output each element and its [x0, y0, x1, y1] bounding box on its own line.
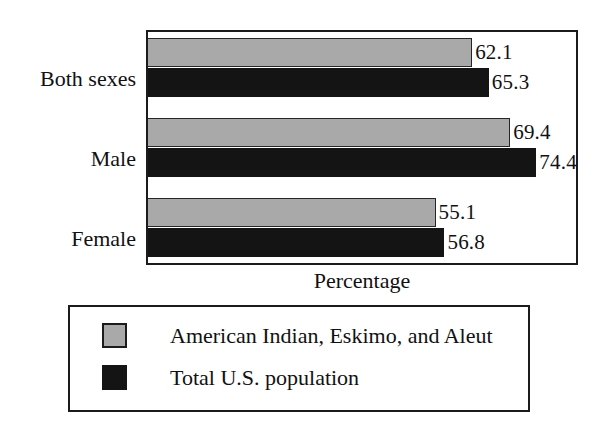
- bar-value-both-sexes-american-indian: 62.1: [475, 42, 513, 63]
- plot-inner: 62.1 65.3 69.4 74.4: [148, 32, 576, 263]
- bar-female-american-indian[interactable]: [148, 198, 436, 227]
- bar-value-both-sexes-total-us: 65.3: [492, 72, 530, 93]
- legend-label-total-us: Total U.S. population: [170, 367, 359, 389]
- bar-value-male-total-us: 74.4: [539, 152, 577, 173]
- bar-chart-figure: Both sexes Male Female 62.1 65.3: [0, 0, 607, 444]
- bar-row-both-sexes-total-us: 65.3: [148, 68, 529, 97]
- legend-entry-american-indian[interactable]: American Indian, Eskimo, and Aleut: [102, 323, 493, 348]
- x-axis-title: Percentage: [146, 270, 578, 292]
- bar-row-female-american-indian: 55.1: [148, 198, 476, 227]
- gray-swatch-icon: [102, 323, 127, 348]
- bar-value-male-american-indian: 69.4: [513, 122, 551, 143]
- bar-female-total-us[interactable]: [148, 228, 444, 257]
- category-axis-labels: Both sexes Male Female: [0, 30, 136, 265]
- bar-row-female-total-us: 56.8: [148, 228, 485, 257]
- black-swatch-icon: [102, 365, 127, 390]
- bar-group-both-sexes: 62.1 65.3: [148, 38, 576, 100]
- bar-row-male-total-us: 74.4: [148, 148, 577, 177]
- legend-entry-total-us[interactable]: Total U.S. population: [102, 365, 359, 390]
- plot-area: 62.1 65.3 69.4 74.4: [146, 30, 578, 265]
- bar-value-female-american-indian: 55.1: [439, 202, 477, 223]
- bar-both-sexes-american-indian[interactable]: [148, 38, 472, 67]
- legend-label-american-indian: American Indian, Eskimo, and Aleut: [170, 325, 493, 347]
- category-label-female: Female: [0, 228, 136, 250]
- category-label-both-sexes: Both sexes: [0, 68, 136, 90]
- category-label-male: Male: [0, 148, 136, 170]
- bar-row-male-american-indian: 69.4: [148, 118, 551, 147]
- bar-both-sexes-total-us[interactable]: [148, 68, 489, 97]
- legend: American Indian, Eskimo, and Aleut Total…: [68, 305, 530, 412]
- bar-row-both-sexes-american-indian: 62.1: [148, 38, 513, 67]
- bar-group-male: 69.4 74.4: [148, 118, 576, 180]
- bar-value-female-total-us: 56.8: [447, 232, 485, 253]
- bar-group-female: 55.1 56.8: [148, 198, 576, 260]
- bar-male-total-us[interactable]: [148, 148, 536, 177]
- bar-male-american-indian[interactable]: [148, 118, 510, 147]
